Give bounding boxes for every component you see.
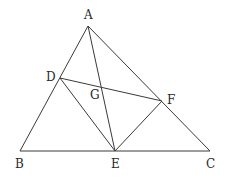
segment-ab [20, 26, 88, 151]
label-e: E [111, 157, 120, 171]
segments [20, 26, 210, 151]
labels: A B C D E F G [15, 8, 215, 171]
label-f: F [167, 93, 175, 107]
label-c: C [206, 157, 215, 171]
label-d: D [46, 70, 56, 84]
geometry-diagram: A B C D E F G [0, 0, 227, 179]
label-g: G [90, 88, 100, 102]
label-a: A [83, 8, 93, 22]
label-b: B [15, 157, 24, 171]
segment-ef [115, 101, 162, 151]
